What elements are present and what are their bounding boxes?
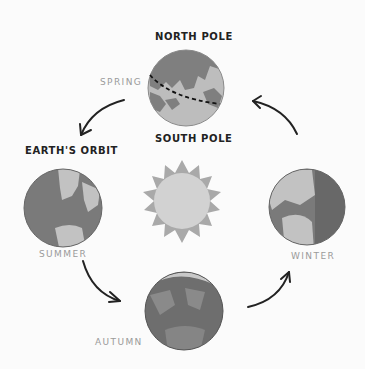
earths-orbit-label: EARTH'S ORBIT [25,145,118,156]
earth-globe-icon [145,272,223,352]
north-pole-label: NORTH POLE [155,31,233,42]
season-label-summer: SUMMER [39,249,87,259]
season-label-spring: SPRING [100,77,142,87]
season-label-winter: WINTER [291,251,335,261]
earth-globe-icon [269,168,355,250]
orbit-arrow-icon [253,96,297,134]
south-pole-label: SOUTH POLE [155,133,233,144]
earth-globe-icon [148,50,224,126]
earth-seasons-diagram: NORTH POLE SOUTH POLE EARTH'S ORBIT SPRI… [0,0,365,369]
earth-globe-icon [24,168,102,252]
orbit-arrow-icon [80,100,124,135]
orbit-arrow-icon [83,261,120,302]
diagram-graphics [0,0,365,369]
orbit-arrow-icon [248,272,290,307]
sun-icon [143,160,221,243]
season-label-autumn: AUTUMN [95,337,143,347]
